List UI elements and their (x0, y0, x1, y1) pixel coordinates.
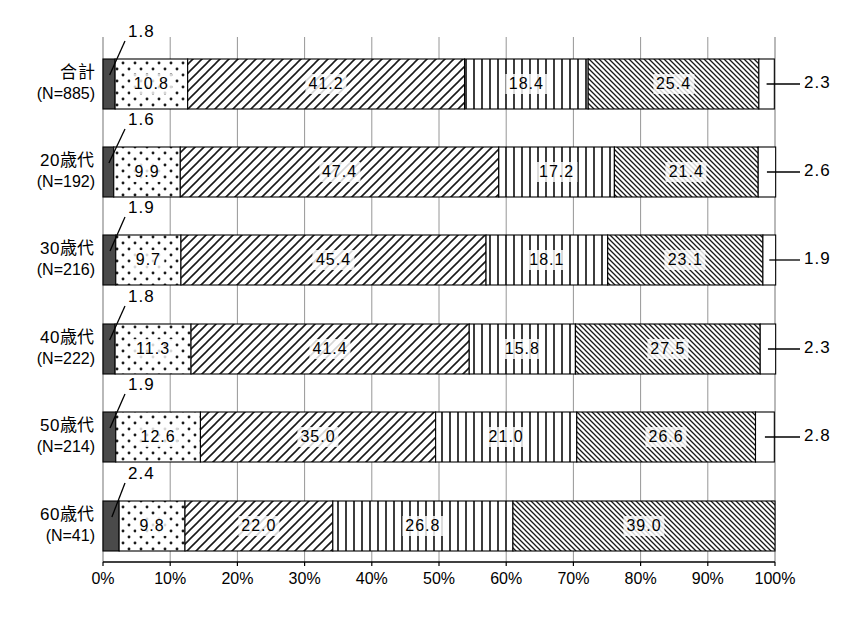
segment-value-label: 21.0 (486, 427, 527, 447)
segment-right-value: 2.8 (804, 426, 831, 446)
category-sample-size: (N=214) (0, 436, 95, 457)
x-axis (103, 562, 775, 566)
category-sample-size: (N=192) (0, 171, 95, 192)
segment-callout-value: 1.9 (128, 198, 155, 218)
axis-tick-label: 60% (490, 570, 522, 588)
segment-value-label: 39.0 (623, 516, 664, 536)
bar-segment (103, 147, 114, 197)
axis-tick-label: 100% (755, 570, 796, 588)
segment-right-value: 1.9 (804, 249, 831, 269)
chart-canvas (0, 0, 849, 634)
segment-value-label: 27.5 (647, 339, 688, 359)
bar-segment (103, 501, 119, 551)
segment-callout-value: 1.9 (128, 375, 155, 395)
category-name: 50歳代 (0, 415, 95, 436)
axis-tick-label: 10% (154, 570, 186, 588)
segment-value-label: 22.0 (238, 516, 279, 536)
category-label-2: 30歳代(N=216) (0, 238, 95, 280)
category-sample-size: (N=885) (0, 83, 95, 104)
axis-tick-label: 50% (423, 570, 455, 588)
segment-value-label: 11.3 (133, 339, 173, 359)
segment-value-label: 26.6 (646, 427, 687, 447)
category-name: 30歳代 (0, 238, 95, 259)
category-sample-size: (N=41) (0, 525, 95, 546)
axis-tick-label: 30% (289, 570, 321, 588)
segment-value-label: 9.9 (131, 162, 162, 182)
category-sample-size: (N=216) (0, 259, 95, 280)
segment-callout-value: 2.4 (128, 464, 155, 484)
segment-value-label: 25.4 (653, 74, 694, 94)
segment-value-label: 9.8 (136, 516, 167, 536)
segment-value-label: 17.2 (536, 162, 577, 182)
segment-right-value: 2.3 (804, 338, 831, 358)
segment-right-value: 2.6 (804, 161, 831, 181)
segment-value-label: 35.0 (297, 427, 338, 447)
stacked-bar-chart: 0%10%20%30%40%50%60%70%80%90%100%合計(N=88… (0, 0, 849, 634)
axis-tick-label: 20% (221, 570, 253, 588)
axis-tick-label: 0% (91, 570, 114, 588)
category-label-4: 50歳代(N=214) (0, 415, 95, 457)
category-name: 合計 (0, 62, 95, 83)
segment-callout-value: 1.8 (128, 22, 155, 42)
segment-value-label: 15.8 (502, 339, 543, 359)
segment-value-label: 18.1 (526, 250, 567, 270)
category-label-0: 合計(N=885) (0, 62, 95, 104)
segment-value-label: 12.6 (138, 427, 179, 447)
segment-value-label: 21.4 (666, 162, 707, 182)
segment-right-value: 2.3 (804, 73, 831, 93)
segment-value-label: 23.1 (665, 250, 706, 270)
category-label-1: 20歳代(N=192) (0, 150, 95, 192)
segment-callout-value: 1.8 (128, 287, 155, 307)
category-name: 20歳代 (0, 150, 95, 171)
category-sample-size: (N=222) (0, 348, 95, 369)
category-name: 40歳代 (0, 327, 95, 348)
segment-callout-value: 1.6 (128, 110, 155, 130)
axis-tick-label: 40% (356, 570, 388, 588)
segment-value-label: 45.4 (313, 250, 354, 270)
axis-tick-label: 80% (625, 570, 657, 588)
segment-value-label: 9.7 (133, 250, 164, 270)
gridlines (103, 37, 775, 562)
segment-value-label: 47.4 (319, 162, 360, 182)
segment-value-label: 41.2 (306, 74, 347, 94)
category-label-5: 60歳代(N=41) (0, 504, 95, 546)
category-label-3: 40歳代(N=222) (0, 327, 95, 369)
category-name: 60歳代 (0, 504, 95, 525)
segment-value-label: 10.8 (131, 74, 172, 94)
segment-value-label: 18.4 (506, 74, 547, 94)
axis-tick-label: 90% (692, 570, 724, 588)
segment-value-label: 41.4 (310, 339, 351, 359)
axis-tick-label: 70% (557, 570, 589, 588)
segment-value-label: 26.8 (402, 516, 443, 536)
